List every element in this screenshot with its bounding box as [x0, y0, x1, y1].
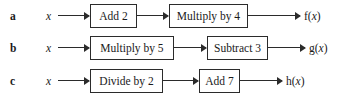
process-box-c-1: Divide by 2	[90, 69, 163, 93]
flowchart-row-c: c x Divide by 2 Add 7 h(x)	[0, 65, 344, 97]
row-label-b: b	[10, 32, 16, 64]
arrow-input-to-step1-b	[58, 47, 89, 48]
process-box-b-2: Subtract 3	[207, 36, 268, 60]
output-label-c: h(x)	[286, 65, 305, 97]
output-label-b: g(x)	[309, 32, 328, 64]
row-label-a: a	[10, 0, 16, 32]
output-label-a: f(x)	[304, 0, 321, 32]
arrow-input-to-step1-a	[58, 15, 89, 16]
output-paren-close-a: )	[317, 10, 321, 22]
arrow-step2-to-output-a	[248, 15, 300, 16]
arrow-step1-to-step2-b	[174, 47, 206, 48]
input-variable-b: x	[46, 32, 51, 64]
output-paren-close-b: )	[324, 42, 328, 54]
process-box-c-2: Add 7	[199, 69, 240, 93]
row-label-c: c	[10, 65, 15, 97]
input-variable-a: x	[46, 0, 51, 32]
arrow-step2-to-output-b	[268, 47, 305, 48]
function-machine-diagram: a x Add 2 Multiply by 4 f(x) b x Multipl…	[0, 0, 344, 100]
process-box-a-2: Multiply by 4	[169, 4, 248, 28]
arrow-input-to-step1-c	[58, 80, 89, 81]
arrow-step1-to-step2-a	[137, 15, 168, 16]
process-box-b-1: Multiply by 5	[90, 36, 174, 60]
process-box-a-1: Add 2	[90, 4, 137, 28]
arrow-step1-to-step2-c	[163, 80, 198, 81]
output-paren-close-c: )	[301, 75, 305, 87]
flowchart-row-a: a x Add 2 Multiply by 4 f(x)	[0, 0, 344, 32]
flowchart-row-b: b x Multiply by 5 Subtract 3 g(x)	[0, 32, 344, 64]
input-variable-c: x	[46, 65, 51, 97]
arrow-step2-to-output-c	[240, 80, 282, 81]
